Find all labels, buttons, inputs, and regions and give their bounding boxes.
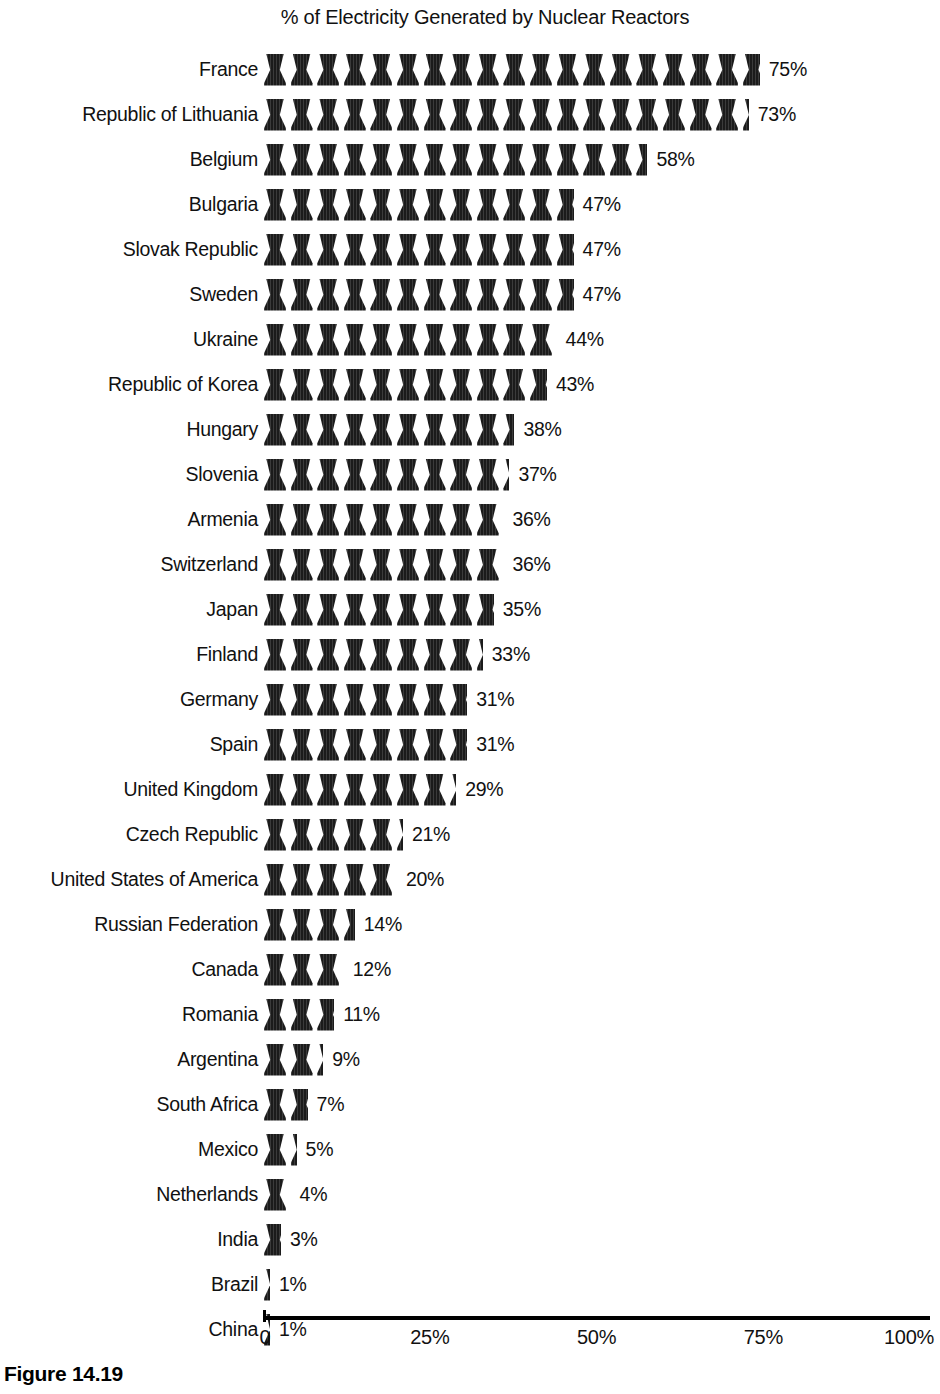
cooling-tower-icon: [344, 549, 366, 581]
cooling-tower-icon: [397, 324, 419, 356]
cooling-tower-icon: [317, 774, 339, 806]
cooling-tower-icon: [636, 99, 658, 131]
pictogram-row: South Africa7%: [0, 1081, 940, 1126]
cooling-tower-icon: [344, 774, 366, 806]
pictogram-plot-area: France75%Republic of Lithuania73%Belgium…: [0, 46, 940, 1306]
cooling-tower-icon: [663, 54, 685, 86]
row-label-country: Hungary: [186, 417, 258, 440]
row-icon-group: [264, 727, 477, 761]
cooling-tower-icon: [397, 99, 419, 131]
row-value-label: 75%: [769, 57, 807, 80]
row-icon-group: [264, 997, 344, 1031]
pictogram-row: Mexico5%: [0, 1126, 940, 1171]
row-icon-group: [264, 502, 503, 536]
pictogram-row: Netherlands4%: [0, 1171, 940, 1216]
cooling-tower-icon: [424, 189, 446, 221]
row-icon-group: [264, 547, 503, 581]
cooling-tower-icon: [557, 234, 574, 266]
cooling-tower-icon: [424, 279, 446, 311]
cooling-tower-icon: [317, 1044, 323, 1076]
cooling-tower-icon: [397, 774, 419, 806]
axis-tick-label: 0: [260, 1326, 271, 1349]
row-value-label: 38%: [523, 417, 561, 440]
cooling-tower-icon: [264, 54, 286, 86]
pictogram-row: Republic of Korea43%: [0, 361, 940, 406]
cooling-tower-icon: [716, 54, 738, 86]
cooling-tower-icon: [344, 189, 366, 221]
row-value-label: 35%: [503, 597, 541, 620]
row-label-country: Republic of Lithuania: [82, 102, 258, 125]
pictogram-row: Brazil1%: [0, 1261, 940, 1306]
cooling-tower-icon: [610, 144, 632, 176]
cooling-tower-icon: [477, 144, 499, 176]
cooling-tower-icon: [344, 414, 366, 446]
cooling-tower-icon: [264, 909, 286, 941]
pictogram-row: Slovenia37%: [0, 451, 940, 496]
cooling-tower-icon: [370, 729, 392, 761]
cooling-tower-icon: [370, 189, 392, 221]
cooling-tower-icon: [397, 729, 419, 761]
cooling-tower-icon: [557, 54, 579, 86]
row-icon-group: [264, 52, 769, 86]
cooling-tower-icon: [450, 144, 472, 176]
row-label-country: Spain: [210, 732, 258, 755]
row-label-country: United Kingdom: [123, 777, 258, 800]
cooling-tower-icon: [291, 639, 313, 671]
cooling-tower-icon: [291, 1134, 297, 1166]
cooling-tower-icon: [317, 54, 339, 86]
pictogram-row: Spain31%: [0, 721, 940, 766]
row-label-country: Romania: [182, 1002, 258, 1025]
cooling-tower-icon: [397, 639, 419, 671]
cooling-tower-icon: [530, 189, 552, 221]
pictogram-row: Russian Federation14%: [0, 901, 940, 946]
cooling-tower-icon: [317, 729, 339, 761]
row-label-country: Armenia: [187, 507, 258, 530]
cooling-tower-icon: [450, 639, 472, 671]
cooling-tower-icon: [397, 504, 419, 536]
cooling-tower-icon: [424, 684, 446, 716]
cooling-tower-icon: [264, 1179, 286, 1211]
cooling-tower-icon: [317, 234, 339, 266]
cooling-tower-icon: [477, 54, 499, 86]
row-icon-group: [264, 637, 503, 671]
row-value-label: 44%: [566, 327, 604, 350]
cooling-tower-icon: [477, 459, 499, 491]
cooling-tower-icon: [397, 594, 419, 626]
cooling-tower-icon: [344, 99, 366, 131]
pictogram-row: United Kingdom29%: [0, 766, 940, 811]
row-icon-group: [264, 817, 424, 851]
cooling-tower-icon: [557, 189, 574, 221]
row-value-label: 33%: [492, 642, 530, 665]
cooling-tower-icon: [503, 459, 509, 491]
cooling-tower-icon: [344, 54, 366, 86]
cooling-tower-icon: [636, 54, 658, 86]
cooling-tower-icon: [264, 729, 286, 761]
cooling-tower-icon: [477, 504, 499, 536]
cooling-tower-icon: [557, 99, 579, 131]
cooling-tower-icon: [716, 99, 738, 131]
cooling-tower-icon: [344, 324, 366, 356]
cooling-tower-icon: [424, 234, 446, 266]
cooling-tower-icon: [317, 279, 339, 311]
row-icon-group: [264, 1222, 291, 1256]
cooling-tower-icon: [424, 549, 446, 581]
row-icon-group: [264, 862, 397, 896]
cooling-tower-icon: [344, 819, 366, 851]
cooling-tower-icon: [317, 864, 339, 896]
pictogram-row: Argentina9%: [0, 1036, 940, 1081]
pictogram-row: Romania11%: [0, 991, 940, 1036]
cooling-tower-icon: [450, 324, 472, 356]
cooling-tower-icon: [397, 234, 419, 266]
cooling-tower-icon: [317, 99, 339, 131]
row-icon-group: [264, 1177, 291, 1211]
cooling-tower-icon: [477, 594, 494, 626]
row-icon-group: [264, 367, 557, 401]
cooling-tower-icon: [530, 144, 552, 176]
cooling-tower-icon: [450, 189, 472, 221]
pictogram-row: Czech Republic21%: [0, 811, 940, 856]
row-icon-group: [264, 187, 583, 221]
cooling-tower-icon: [424, 594, 446, 626]
cooling-tower-icon: [503, 234, 525, 266]
cooling-tower-icon: [291, 414, 313, 446]
cooling-tower-icon: [291, 54, 313, 86]
